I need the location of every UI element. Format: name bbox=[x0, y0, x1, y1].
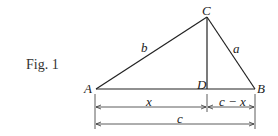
side-b bbox=[96, 17, 207, 89]
dimension-x-label: x bbox=[145, 94, 152, 109]
vertex-b-label: B bbox=[257, 81, 265, 96]
dimension-c-minus-x-label: c − x bbox=[219, 94, 246, 109]
side-a bbox=[207, 17, 255, 89]
dimension-c-label: c bbox=[177, 111, 183, 126]
vertex-a-label: A bbox=[83, 81, 92, 96]
side-b-label: b bbox=[141, 40, 148, 55]
vertex-d-label: D bbox=[196, 77, 207, 92]
figure-caption: Fig. 1 bbox=[26, 57, 59, 72]
side-a-label: a bbox=[233, 41, 240, 56]
triangle-diagram: Fig. 1 A C B D b a x c − x c bbox=[0, 0, 278, 136]
vertex-c-label: C bbox=[202, 3, 211, 18]
